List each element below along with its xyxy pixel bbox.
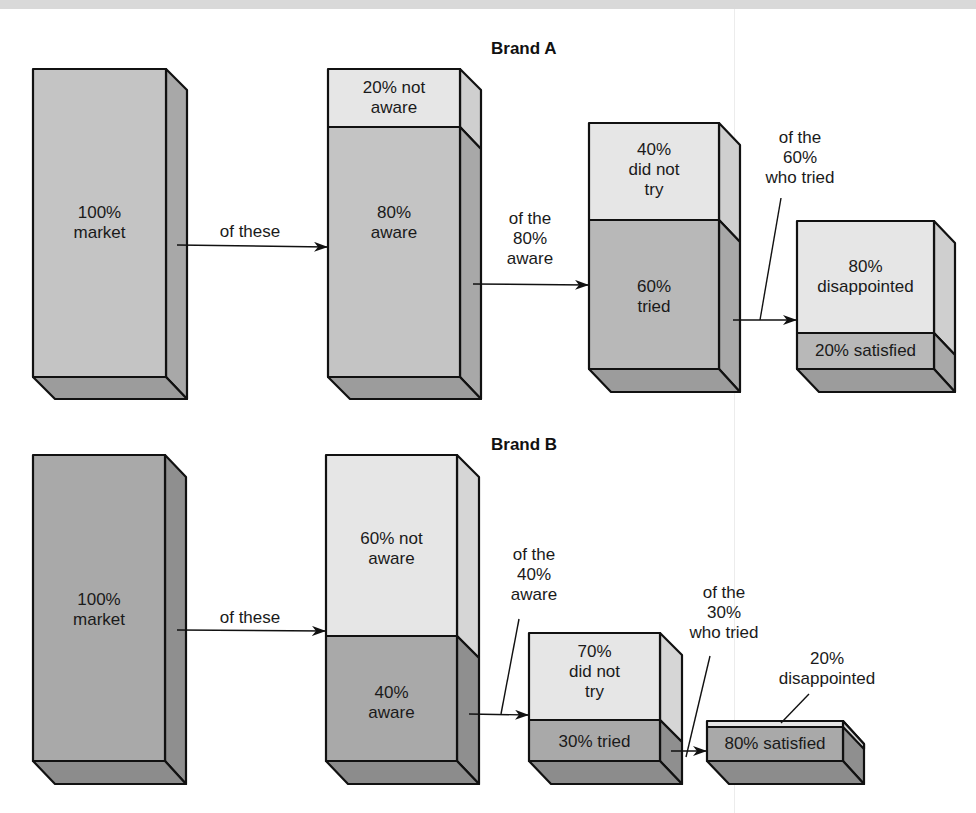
brand-b-arrow-2-label: of the 40% aware [494, 545, 574, 605]
brand-b-leader-2 [501, 619, 519, 714]
brand-b-not-aware-label: 60% not aware [326, 529, 457, 569]
brand-b-arrow-2 [469, 714, 528, 715]
brand-a-market-label: 100% market [33, 203, 166, 243]
brand-b-market-label: 100% market [33, 590, 165, 630]
brand-b-arrow-3-label: of the 30% who tried [674, 583, 774, 643]
brand-b-tried-label: 30% tried [529, 732, 660, 752]
brand-a-aware-label: 80% aware [328, 203, 460, 243]
brand-b-disappointed-label: 20% disappointed [762, 649, 892, 689]
brand-a-leader-3 [760, 198, 781, 320]
brand-a-arrow-3-label: of the 60% who tried [750, 128, 850, 188]
brand-b-aware-label: 40% aware [326, 683, 457, 723]
brand-b-title: Brand B [491, 435, 557, 455]
brand-a-satisfied-label: 20% satisfied [797, 341, 934, 361]
brand-a-did-not-try-label: 40% did not try [589, 140, 719, 200]
brand-b-satisfied-label: 80% satisfied [707, 734, 843, 754]
brand-b-awareness-box [326, 455, 479, 784]
brand-b-did-not-try-label: 70% did not try [529, 642, 660, 702]
brand-a-arrow-2-label: of the 80% aware [490, 209, 570, 269]
brand-a-arrow-1 [177, 245, 327, 247]
brand-b-leader-4 [781, 694, 809, 723]
brand-a-tried-label: 60% tried [589, 277, 719, 317]
brand-a-arrow-2 [473, 284, 588, 285]
brand-b-arrow-1 [177, 630, 325, 631]
brand-a-disappointed-label: 80% disappointed [797, 257, 934, 297]
brand-a-title: Brand A [491, 39, 557, 59]
funnel-diagram [0, 0, 976, 813]
brand-a-not-aware-label: 20% not aware [328, 78, 460, 118]
brand-b-arrow-1-label: of these [190, 608, 310, 628]
brand-a-satisfaction-box [797, 221, 955, 392]
brand-a-arrow-1-label: of these [190, 222, 310, 242]
